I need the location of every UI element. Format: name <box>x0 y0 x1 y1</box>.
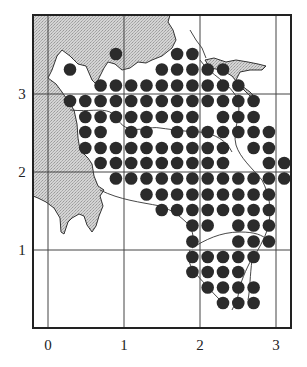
sample-dot <box>232 79 245 92</box>
sample-dot <box>247 251 260 264</box>
sample-dot <box>156 157 169 170</box>
sample-dot <box>125 172 138 185</box>
sample-dot <box>79 126 92 139</box>
sample-dot <box>171 157 184 170</box>
sample-dot <box>156 63 169 76</box>
sample-dot <box>94 79 107 92</box>
grid-map: 0 1 2 3 3 2 1 <box>0 0 307 367</box>
sample-dot <box>217 251 230 264</box>
island <box>205 58 266 98</box>
sample-dot <box>201 63 214 76</box>
sample-dot <box>94 142 107 155</box>
y-tick-label: 2 <box>18 164 26 180</box>
sample-dot <box>156 188 169 201</box>
sample-dots <box>64 48 291 310</box>
sample-dot <box>94 111 107 124</box>
sample-dot <box>171 79 184 92</box>
sample-dot <box>217 281 230 294</box>
y-tick-label: 1 <box>18 242 26 258</box>
sample-dot <box>217 95 230 108</box>
sample-dot <box>201 266 214 279</box>
sample-dot <box>64 63 77 76</box>
sample-dot <box>247 111 260 124</box>
sample-dot <box>171 142 184 155</box>
sample-dot <box>186 172 199 185</box>
sample-dot <box>232 281 245 294</box>
sample-dot <box>171 188 184 201</box>
sample-dot <box>186 63 199 76</box>
x-tick-label: 1 <box>120 337 128 353</box>
sample-dot <box>278 172 291 185</box>
sample-dot <box>171 95 184 108</box>
sample-dot <box>232 188 245 201</box>
sample-dot <box>140 126 153 139</box>
sample-dot <box>201 204 214 217</box>
sample-dot <box>247 235 260 248</box>
x-tick-label: 3 <box>272 337 280 353</box>
sample-dot <box>263 204 276 217</box>
sample-dot <box>217 142 230 155</box>
sample-dot <box>247 281 260 294</box>
sample-dot <box>217 297 230 310</box>
x-tick-label: 2 <box>196 337 204 353</box>
sample-dot <box>232 219 245 232</box>
sample-dot <box>110 157 123 170</box>
sample-dot <box>125 157 138 170</box>
sample-dot <box>171 63 184 76</box>
sample-dot <box>94 126 107 139</box>
sample-dot <box>217 204 230 217</box>
sample-dot <box>232 95 245 108</box>
sample-dot <box>263 142 276 155</box>
sample-dot <box>232 266 245 279</box>
sample-dot <box>110 79 123 92</box>
y-tick-label: 3 <box>18 86 26 102</box>
sample-dot <box>186 235 199 248</box>
sample-dot <box>232 111 245 124</box>
sample-dot <box>247 219 260 232</box>
sample-dot <box>217 266 230 279</box>
sample-dot <box>247 95 260 108</box>
sample-dot <box>110 172 123 185</box>
sample-dot <box>156 111 169 124</box>
sample-dot <box>232 172 245 185</box>
sample-dot <box>247 188 260 201</box>
y-axis-labels: 3 2 1 <box>18 86 26 258</box>
sample-dot <box>201 157 214 170</box>
sample-dot <box>186 251 199 264</box>
sample-dot <box>201 142 214 155</box>
sample-dot <box>247 297 260 310</box>
sample-dot <box>217 126 230 139</box>
sample-dot <box>186 142 199 155</box>
sample-dot <box>232 297 245 310</box>
sample-dot <box>247 204 260 217</box>
sample-dot <box>94 157 107 170</box>
sample-dot <box>94 95 107 108</box>
sample-dot <box>125 142 138 155</box>
sample-dot <box>125 95 138 108</box>
sample-dot <box>263 188 276 201</box>
sample-dot <box>217 188 230 201</box>
sample-dot <box>140 79 153 92</box>
sample-dot <box>186 266 199 279</box>
land-mass <box>33 15 176 234</box>
sample-dot <box>186 126 199 139</box>
sample-dot <box>125 79 138 92</box>
sample-dot <box>201 172 214 185</box>
sample-dot <box>110 111 123 124</box>
sample-dot <box>140 172 153 185</box>
sample-dot <box>110 142 123 155</box>
sample-dot <box>140 111 153 124</box>
x-axis-labels: 0 1 2 3 <box>44 337 280 353</box>
sample-dot <box>125 126 138 139</box>
sample-dot <box>232 126 245 139</box>
sample-dot <box>201 188 214 201</box>
sample-dot <box>110 48 123 61</box>
sample-dot <box>171 111 184 124</box>
sample-dot <box>263 126 276 139</box>
sample-dot <box>201 79 214 92</box>
sample-dot <box>156 95 169 108</box>
sample-dot <box>217 63 230 76</box>
sample-dot <box>217 172 230 185</box>
sample-dot <box>217 111 230 124</box>
sample-dot <box>79 111 92 124</box>
